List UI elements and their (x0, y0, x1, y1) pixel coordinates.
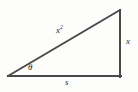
triangle-figure: x2 x s θ (0, 0, 138, 92)
triangle-drawing (0, 0, 138, 92)
base-side-label: s (65, 78, 69, 87)
vertical-side-label: x (126, 37, 130, 46)
triangle-hypotenuse-line (8, 10, 120, 76)
angle-theta-label: θ (28, 63, 32, 72)
hypotenuse-label: x2 (56, 26, 63, 35)
hypotenuse-label-exponent: 2 (60, 24, 63, 30)
